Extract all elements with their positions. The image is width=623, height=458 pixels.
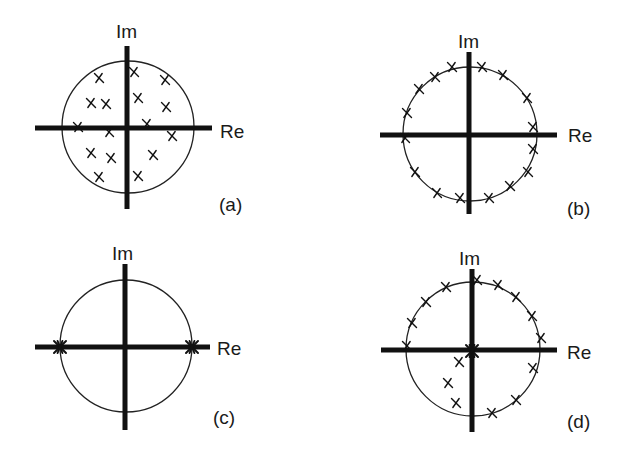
figure-canvas [0, 0, 623, 458]
root-marker-x-icon [411, 168, 420, 177]
root-marker-x-icon [87, 99, 96, 108]
root-marker-x-icon [162, 103, 171, 112]
panel-a-real-axis-label: Re [220, 122, 244, 141]
root-marker-x-icon [529, 364, 538, 373]
root-marker-x-icon [528, 312, 537, 321]
root-marker-x-icon [130, 68, 139, 77]
panel-d-caption: (d) [567, 412, 590, 431]
root-marker-x-icon [444, 379, 453, 388]
panel-b-imag-axis-label: Im [458, 32, 479, 51]
complex-plane-figure: Im Re (a) Im Re (b) Im Re (c) Im Re (d) [0, 0, 623, 458]
root-marker-x-icon [455, 358, 464, 367]
panel-c-real-axis-label: Re [217, 339, 241, 358]
root-marker-x-icon [499, 71, 508, 80]
panel-c [35, 264, 210, 430]
root-marker-x-icon [95, 173, 104, 182]
root-marker-x-icon [95, 74, 104, 83]
panel-d [381, 269, 557, 432]
panel-d-imag-axis-label: Im [459, 249, 480, 268]
panel-b-real-axis-label: Re [568, 126, 592, 145]
root-marker-x-icon [415, 85, 424, 94]
root-marker-x-icon [433, 189, 442, 198]
panel-a-caption: (a) [219, 195, 242, 214]
panel-b-caption: (b) [567, 199, 590, 218]
panel-c-imag-axis-label: Im [112, 244, 133, 263]
root-marker-x-icon [485, 194, 494, 203]
root-marker-x-icon [134, 172, 143, 181]
root-marker-x-icon [523, 94, 532, 103]
panel-a [35, 46, 212, 209]
root-marker-x-icon [134, 94, 143, 103]
root-marker-x-icon [512, 293, 521, 302]
panel-d-real-axis-label: Re [567, 343, 591, 362]
root-marker-x-icon [168, 132, 177, 141]
root-marker-x-icon [537, 334, 546, 343]
root-marker-x-icon [161, 76, 170, 85]
root-marker-x-icon [107, 154, 116, 163]
root-marker-x-icon [102, 100, 111, 109]
root-marker-x-icon [456, 194, 465, 203]
root-marker-x-icon [452, 399, 461, 408]
panel-b [380, 52, 557, 214]
root-marker-x-icon [149, 151, 158, 160]
panel-a-imag-axis-label: Im [116, 22, 137, 41]
panel-c-caption: (c) [213, 408, 235, 427]
root-marker-x-icon [87, 149, 96, 158]
root-marker-x-icon [431, 73, 440, 82]
root-marker-x-icon [488, 409, 497, 418]
